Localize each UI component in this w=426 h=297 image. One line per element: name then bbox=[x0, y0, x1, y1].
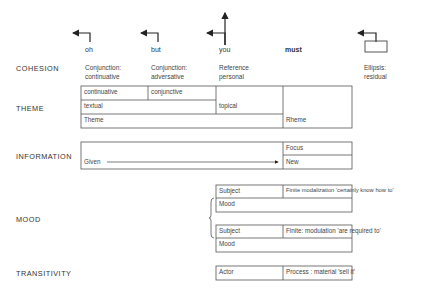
transitivity-actor: Actor bbox=[216, 268, 234, 275]
word-must: must bbox=[285, 46, 302, 53]
mood-1-finite: Finite modalization 'certainly know how … bbox=[283, 187, 394, 193]
theme-theme: Theme bbox=[81, 116, 104, 123]
information-focus: Focus bbox=[283, 144, 303, 151]
theme-topical: topical bbox=[216, 102, 237, 109]
row-label-mood: MOOD bbox=[16, 215, 41, 224]
row-label-theme: THEME bbox=[16, 104, 44, 113]
cohesion-ellipsis: Ellipsis:residual bbox=[364, 63, 387, 81]
transitivity-process: Process : material 'sell it' bbox=[283, 268, 355, 275]
diagram-lines bbox=[0, 0, 426, 297]
ellipsis-box bbox=[365, 41, 387, 52]
mood-2-finite: Finite: modulation 'are required to' bbox=[283, 227, 381, 234]
information-given: Given bbox=[84, 158, 100, 165]
row-label-information: INFORMATION bbox=[16, 152, 72, 161]
but-cohesion-arrow bbox=[141, 33, 158, 42]
word-you: you bbox=[219, 46, 230, 53]
theme-conjunctive: conjunctive bbox=[148, 88, 183, 95]
mood-brace bbox=[209, 198, 214, 238]
you-left-arrow bbox=[207, 33, 225, 45]
row-label-transitivity: TRANSITIVITY bbox=[16, 269, 71, 278]
row-label-cohesion: COHESION bbox=[16, 64, 59, 73]
cohesion-oh: Conjunction:continuative bbox=[85, 63, 121, 81]
information-new: New bbox=[283, 158, 299, 165]
cohesion-but: Conjunction:adversative bbox=[151, 63, 187, 81]
information-box-border bbox=[81, 142, 352, 169]
theme-textual: textual bbox=[81, 102, 103, 109]
mood-2-subject: Subject bbox=[216, 227, 240, 234]
theme-continuative: continuative bbox=[81, 88, 118, 95]
mood-1-subject: Subject bbox=[216, 187, 240, 194]
oh-cohesion-arrow bbox=[73, 33, 90, 42]
cohesion-you: Referencepersonal bbox=[219, 63, 249, 81]
theme-rheme: Rheme bbox=[283, 116, 306, 123]
mood-2-mood: Mood bbox=[216, 240, 235, 247]
mood-1-mood: Mood bbox=[216, 200, 235, 207]
word-but: but bbox=[151, 46, 161, 53]
word-oh: oh bbox=[85, 46, 93, 53]
